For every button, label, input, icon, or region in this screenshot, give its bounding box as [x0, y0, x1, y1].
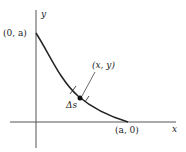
x-axis-label: x — [172, 124, 177, 134]
y-intercept-label: (0, a) — [3, 28, 27, 38]
x-intercept-label: (a, 0) — [115, 125, 139, 135]
point-label: (x, y) — [92, 60, 115, 70]
point-marker — [78, 96, 83, 101]
arc-element-label: Δs — [65, 100, 77, 110]
curve — [36, 33, 128, 122]
arc-tick-2 — [85, 96, 89, 102]
y-axis-label: y — [40, 9, 47, 19]
leader-line — [82, 72, 95, 96]
diagram: y x (0, a) (a, 0) (x, y) Δs — [0, 0, 186, 152]
